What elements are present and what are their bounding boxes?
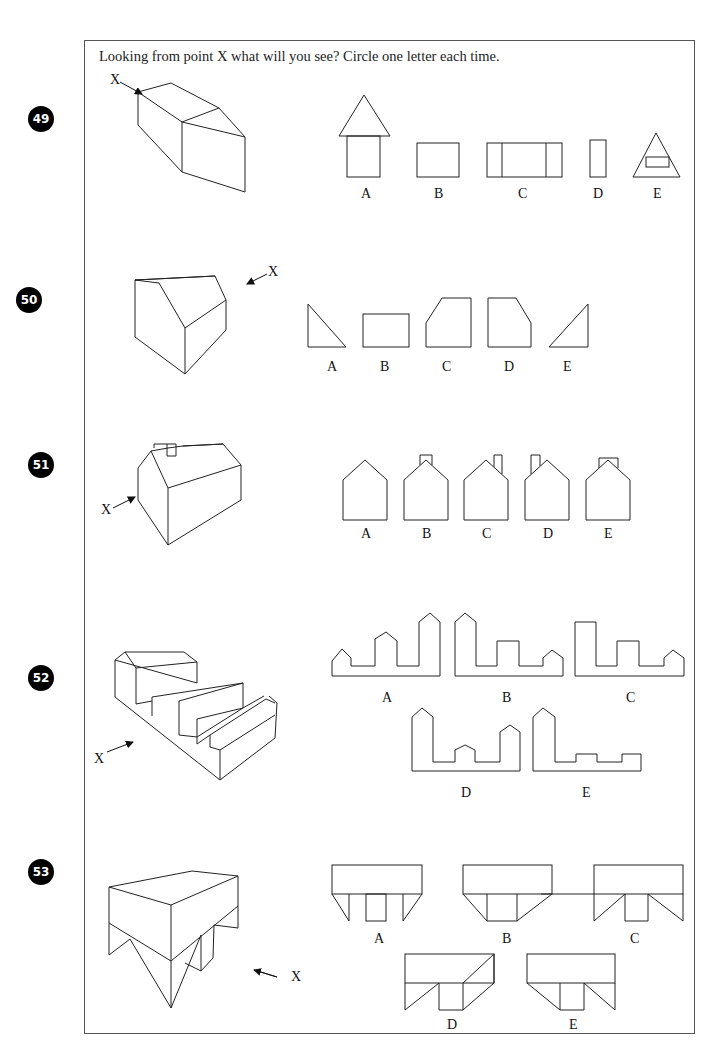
q49-label-a[interactable]: A (361, 186, 372, 201)
q50-solid (135, 276, 226, 374)
q50-option-a[interactable] (308, 304, 346, 347)
viewpoint-x-label: X (110, 72, 120, 87)
q53-label-a[interactable]: A (374, 931, 385, 946)
q50-viewpoint-arrow: X (247, 264, 278, 284)
q51-option-b[interactable] (404, 455, 448, 520)
viewpoint-x-label: X (101, 502, 111, 517)
q52-option-d[interactable] (412, 708, 520, 771)
q52-option-e[interactable] (533, 708, 641, 771)
q53-option-d[interactable] (405, 954, 494, 1010)
q53-option-e[interactable] (527, 954, 615, 1010)
q50-options (308, 298, 588, 347)
q53-option-c[interactable] (541, 865, 683, 921)
q52-solid (115, 652, 277, 780)
q51-option-c[interactable] (464, 455, 508, 520)
q51-label-a[interactable]: A (361, 526, 372, 541)
q51-option-a[interactable] (343, 460, 387, 520)
q50-option-e[interactable] (549, 304, 588, 347)
q49-option-d[interactable] (590, 140, 606, 177)
q52-viewpoint-arrow: X (94, 742, 133, 766)
q49-viewpoint-arrow: X (110, 72, 142, 94)
q52-option-b[interactable] (455, 613, 563, 676)
q49-label-b[interactable]: B (434, 186, 443, 201)
viewpoint-x-label: X (291, 969, 301, 984)
q53-label-b[interactable]: B (502, 931, 511, 946)
q49-option-a[interactable] (339, 95, 390, 177)
viewpoint-x-label: X (268, 264, 278, 279)
q51-label-b[interactable]: B (422, 526, 431, 541)
q52-label-e[interactable]: E (582, 785, 591, 800)
q49-label-d[interactable]: D (593, 186, 603, 201)
q52-label-b[interactable]: B (502, 690, 511, 705)
q49-option-e[interactable] (633, 133, 680, 177)
q50-label-e[interactable]: E (563, 359, 572, 374)
q49-option-labels: A B C D E (361, 186, 662, 201)
q53-viewpoint-arrow: X (254, 969, 301, 984)
q49-solid (138, 83, 245, 192)
q50-label-b[interactable]: B (380, 359, 389, 374)
q51-label-e[interactable]: E (604, 526, 613, 541)
q50-option-d[interactable] (488, 298, 531, 347)
q49-option-c[interactable] (487, 143, 562, 177)
q50-label-c[interactable]: C (442, 359, 451, 374)
q51-viewpoint-arrow: X (101, 497, 135, 517)
q51-label-c[interactable]: C (482, 526, 491, 541)
q53-label-c[interactable]: C (630, 931, 639, 946)
q53-label-e[interactable]: E (569, 1017, 578, 1032)
q51-options (343, 455, 630, 520)
q49-options (339, 95, 680, 177)
q53-label-d[interactable]: D (447, 1017, 457, 1032)
q50-label-d[interactable]: D (504, 359, 514, 374)
q49-label-c[interactable]: C (518, 186, 527, 201)
q51-label-d[interactable]: D (543, 526, 553, 541)
q50-option-b[interactable] (363, 314, 409, 347)
q49-option-b[interactable] (417, 143, 459, 177)
q52-label-c[interactable]: C (626, 690, 635, 705)
q53-option-a[interactable] (332, 865, 422, 921)
q51-option-e[interactable] (586, 458, 630, 520)
q52-option-a[interactable] (332, 613, 440, 676)
viewpoint-x-label: X (94, 751, 104, 766)
q50-label-a[interactable]: A (327, 359, 338, 374)
q52-option-c[interactable] (575, 622, 684, 676)
q53-solid (109, 871, 238, 1008)
q52-option-labels: A B C D E (382, 690, 635, 800)
q52-label-a[interactable]: A (382, 690, 393, 705)
q52-label-d[interactable]: D (461, 785, 471, 800)
q49-label-e[interactable]: E (653, 186, 662, 201)
q51-solid (138, 444, 241, 545)
q51-option-labels: A B C D E (361, 526, 613, 541)
q50-option-c[interactable] (426, 298, 471, 347)
q53-option-labels: A B C D E (374, 931, 639, 1032)
worksheet-drawings: X A B C D E X (0, 0, 712, 1056)
q51-option-d[interactable] (525, 455, 569, 520)
q53-option-b[interactable] (463, 865, 552, 921)
q50-option-labels: A B C D E (327, 359, 572, 374)
